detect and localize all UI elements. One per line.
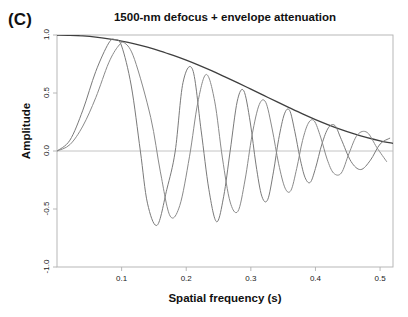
y-axis-title: Amplitude xyxy=(20,81,32,181)
x-tick-label-2: 0.3 xyxy=(236,274,266,283)
figure-panel-c: (C) 1500-nm defocus + envelope attenuati… xyxy=(0,0,408,317)
x-tick-label-1: 0.2 xyxy=(171,274,201,283)
series-envelope xyxy=(57,35,393,143)
x-tick-label-3: 0.4 xyxy=(300,274,330,283)
y-tick-label-2: 0.0 xyxy=(42,140,51,162)
x-axis-title: Spatial frequency (s) xyxy=(57,292,393,304)
y-tick-label-1: -0.5 xyxy=(42,198,51,220)
x-tick-label-4: 0.5 xyxy=(365,274,395,283)
axis-ticks xyxy=(53,35,380,271)
chart-title: 1500-nm defocus + envelope attenuation xyxy=(57,11,393,23)
y-tick-label-4: 1.0 xyxy=(42,24,51,46)
data-series-group xyxy=(57,35,393,226)
y-tick-label-0: -1.0 xyxy=(42,256,51,278)
plot-area xyxy=(0,0,408,317)
y-tick-label-3: 0.5 xyxy=(42,82,51,104)
x-tick-label-0: 0.1 xyxy=(107,274,137,283)
panel-label: (C) xyxy=(8,10,32,30)
